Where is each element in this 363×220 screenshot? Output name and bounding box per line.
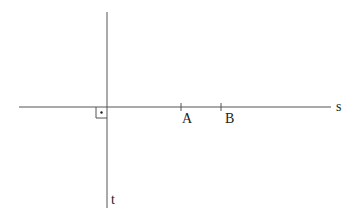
point-a-label: A [182,111,193,126]
point-b-label: B [225,111,234,126]
line-t-label: t [111,192,115,207]
right-angle-marker-icon [96,107,107,118]
line-s-label: s [336,99,341,114]
diagram-canvas: A B s t [0,0,363,220]
